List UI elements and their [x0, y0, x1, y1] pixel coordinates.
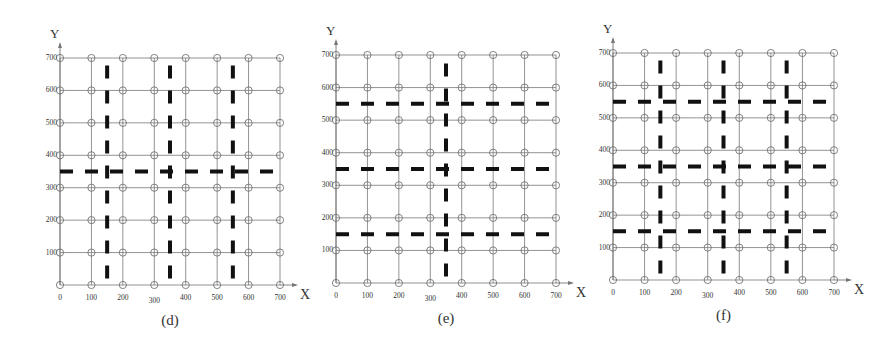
- panel-f: YX01001002002003003004004005005006006007…: [599, 21, 864, 324]
- x-tick-label: 100: [86, 293, 98, 302]
- y-tick-label: 200: [599, 210, 611, 219]
- x-tick-label: 600: [519, 291, 531, 300]
- x-tick-label: 400: [180, 293, 192, 302]
- x-tick-label: 700: [550, 291, 562, 300]
- x-tick-label: 400: [456, 291, 468, 300]
- y-tick-label: 700: [46, 53, 58, 62]
- x-tick-label: 600: [243, 293, 255, 302]
- y-tick-label: 500: [322, 115, 334, 124]
- x-tick-label: 600: [797, 288, 809, 297]
- x-tick-label: 100: [362, 291, 374, 300]
- x-tick-label: 0: [334, 291, 338, 300]
- y-tick-label: 500: [46, 118, 58, 127]
- x-tick-label: 500: [212, 293, 224, 302]
- x-tick-label: 200: [671, 288, 683, 297]
- y-tick-label: 300: [322, 180, 334, 189]
- y-tick-label: 600: [322, 83, 334, 92]
- y-axis-arrow-icon: [334, 39, 338, 45]
- x-tick-label: 300: [702, 291, 714, 300]
- y-tick-label: 600: [46, 85, 58, 94]
- x-tick-label: 700: [274, 293, 286, 302]
- y-axis-arrow-icon: [611, 37, 615, 43]
- y-axis-label: Y: [603, 21, 613, 36]
- x-tick-label: 500: [488, 291, 500, 300]
- x-axis-arrow-icon: [846, 278, 852, 282]
- y-tick-label: 400: [46, 150, 58, 159]
- y-tick-label: 700: [322, 50, 334, 59]
- x-tick-label: 200: [117, 293, 129, 302]
- y-tick-label: 300: [46, 183, 58, 192]
- y-tick-label: 600: [599, 80, 611, 89]
- x-axis-arrow-icon: [568, 281, 574, 285]
- x-tick-label: 300: [425, 294, 437, 303]
- x-axis-arrow-icon: [292, 283, 298, 287]
- y-tick-label: 100: [46, 248, 58, 257]
- x-tick-label: 0: [611, 288, 615, 297]
- panel-caption: (e): [438, 310, 455, 327]
- y-tick-label: 100: [599, 243, 611, 252]
- figure-canvas: YX01001002002003003004004005005006006007…: [0, 0, 886, 342]
- y-axis-label: Y: [50, 26, 60, 41]
- panel-caption: (f): [716, 307, 731, 324]
- y-tick-label: 100: [322, 245, 334, 254]
- x-tick-label: 0: [58, 293, 62, 302]
- y-axis-label: Y: [326, 23, 336, 38]
- x-tick-label: 400: [734, 288, 746, 297]
- x-tick-label: 700: [828, 288, 840, 297]
- y-axis-arrow-icon: [58, 42, 62, 48]
- y-tick-label: 400: [322, 148, 334, 157]
- x-axis-label: X: [576, 285, 586, 300]
- panel-e: YX01001002002003003004004005005006006007…: [322, 23, 586, 327]
- x-tick-label: 100: [639, 288, 651, 297]
- x-tick-label: 200: [393, 291, 405, 300]
- x-tick-label: 300: [149, 296, 161, 305]
- y-tick-label: 200: [322, 213, 334, 222]
- panel-caption: (d): [161, 312, 179, 329]
- x-axis-label: X: [300, 287, 310, 302]
- y-tick-label: 700: [599, 48, 611, 57]
- panel-d: YX01001002002003003004004005005006006007…: [46, 26, 310, 329]
- x-tick-label: 500: [765, 288, 777, 297]
- y-tick-label: 500: [599, 113, 611, 122]
- y-tick-label: 200: [46, 215, 58, 224]
- x-axis-label: X: [854, 282, 864, 297]
- y-tick-label: 400: [599, 145, 611, 154]
- y-tick-label: 300: [599, 178, 611, 187]
